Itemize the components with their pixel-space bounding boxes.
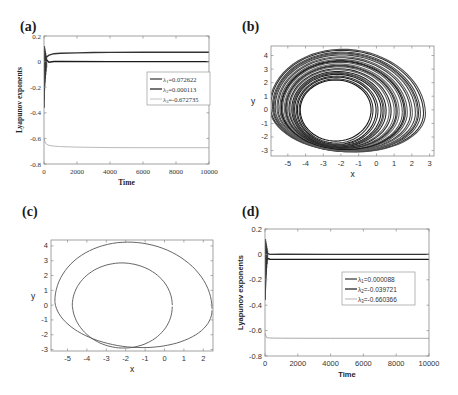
legend: λ1=0.000088λ2=-0.039721λ3=-0.660366 — [342, 272, 415, 305]
x-axis-label: Time — [118, 178, 135, 187]
y-tick-label: 2 — [44, 271, 48, 280]
y-tick-label: -2 — [261, 132, 268, 141]
y-tick-label: -1 — [41, 315, 48, 324]
legend: λ1=0.072622λ2=0.000113λ3=-0.672735 — [147, 72, 210, 105]
chart-panel-c: -5-4-3-2-101243210-1-2-3xy — [31, 240, 213, 374]
x-tick-label: -5 — [64, 354, 71, 363]
chart-panel-a: 02000400060008000100000.20-0.2-0.4-0.6-0… — [15, 33, 218, 188]
y-tick-label: 0 — [258, 250, 262, 259]
y-tick-label: -0.8 — [249, 352, 262, 361]
x-tick-label: 2000 — [289, 359, 306, 368]
y-tick-label: -0.6 — [249, 326, 262, 335]
series-line — [44, 138, 209, 147]
y-axis-label: Lyapunov exponents — [236, 255, 245, 330]
y-tick-label: -3 — [41, 345, 48, 354]
limit-cycle-outer — [55, 242, 212, 348]
y-tick-label: -0.4 — [249, 301, 262, 310]
x-tick-label: 2000 — [70, 168, 85, 176]
limit-cycle-inner — [72, 263, 172, 348]
x-tick-label: -4 — [84, 354, 91, 363]
x-tick-label: 8000 — [169, 168, 184, 176]
y-tick-label: 0.2 — [32, 33, 41, 41]
axes-frame — [51, 240, 213, 351]
x-axis-label: x — [130, 364, 135, 374]
x-tick-label: 10000 — [419, 359, 440, 368]
attractor-loop — [297, 77, 376, 144]
x-tick-label: 4000 — [322, 359, 339, 368]
y-tick-label: 4 — [44, 241, 48, 250]
chart-panel-b: -5-4-3-2-1012343210-1-2-3xy — [251, 46, 434, 179]
x-tick-label: 0 — [263, 359, 267, 368]
attractor-loop — [295, 74, 382, 145]
x-tick-label: 0 — [162, 354, 166, 363]
x-tick-label: 6000 — [355, 359, 372, 368]
y-tick-label: 1 — [264, 92, 268, 101]
x-tick-label: 0 — [374, 159, 378, 168]
series-line — [44, 49, 209, 58]
y-tick-label: -0.8 — [30, 161, 42, 169]
y-tick-label: -2 — [41, 330, 48, 339]
plot-area — [270, 49, 426, 152]
x-tick-label: 8000 — [388, 359, 405, 368]
y-tick-label: 1 — [44, 286, 48, 295]
figure-canvas: 02000400060008000100000.20-0.2-0.4-0.6-0… — [0, 0, 458, 395]
x-tick-label: -3 — [320, 159, 327, 168]
chart-panel-d: 02000400060008000100000.20-0.2-0.4-0.6-0… — [236, 225, 439, 380]
y-tick-label: -0.2 — [249, 275, 262, 284]
y-tick-label: 0 — [38, 58, 42, 66]
y-tick-label: -0.4 — [30, 109, 42, 117]
plot-area — [55, 242, 212, 348]
y-tick-label: 4 — [264, 51, 268, 60]
y-tick-label: 0.2 — [252, 225, 262, 234]
x-tick-label: 0 — [42, 168, 46, 176]
x-tick-label: 10000 — [200, 168, 218, 176]
series-line — [265, 333, 429, 338]
y-tick-label: 3 — [264, 65, 268, 74]
x-tick-label: -5 — [284, 159, 291, 168]
y-axis-label: y — [251, 96, 256, 106]
x-tick-label: 6000 — [136, 168, 151, 176]
attractor-loop — [300, 80, 371, 141]
x-axis-label: x — [350, 169, 355, 179]
x-tick-label: -1 — [355, 159, 362, 168]
y-tick-label: -0.6 — [30, 135, 42, 143]
x-tick-label: 1 — [392, 159, 396, 168]
y-tick-label: 0 — [264, 105, 268, 114]
x-tick-label: 4000 — [103, 168, 118, 176]
y-tick-label: -3 — [261, 146, 268, 155]
x-tick-label: -1 — [142, 354, 149, 363]
x-tick-label: -2 — [122, 354, 129, 363]
x-tick-label: 1 — [182, 354, 186, 363]
y-tick-label: -0.2 — [30, 84, 42, 92]
x-tick-label: 3 — [427, 159, 431, 168]
y-tick-label: 3 — [44, 256, 48, 265]
y-tick-label: 0 — [44, 301, 48, 310]
x-tick-label: -2 — [338, 159, 345, 168]
x-tick-label: -4 — [302, 159, 309, 168]
x-tick-label: -3 — [103, 354, 110, 363]
series-line — [265, 242, 429, 255]
y-tick-label: 2 — [264, 78, 268, 87]
y-axis-label: Lyapunov exponents — [15, 67, 24, 133]
y-axis-label: y — [31, 291, 36, 301]
y-tick-label: -1 — [261, 119, 268, 128]
x-tick-label: 2 — [410, 159, 414, 168]
x-tick-label: 2 — [201, 354, 205, 363]
x-axis-label: Time — [338, 370, 355, 379]
